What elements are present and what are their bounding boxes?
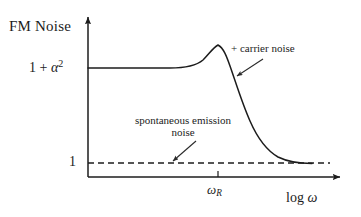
spontaneous-noise-leader-arrow [173, 141, 196, 161]
fm-noise-figure: FM Noise 1 + α2 1 ωR log ω + carrier noi… [0, 0, 361, 217]
x-axis-title-symbol: ω [307, 190, 317, 205]
y-tick-plateau-prefix: 1 + [29, 60, 51, 75]
carrier-noise-annotation: + carrier noise [231, 42, 295, 54]
spontaneous-noise-annotation-line2: noise [171, 126, 194, 138]
x-tick-omega-symbol: ω [207, 182, 216, 197]
x-axis-title: log ω [286, 190, 317, 206]
carrier-noise-annotation-text: + carrier noise [231, 42, 295, 54]
y-tick-label-unity: 1 [69, 154, 76, 170]
y-tick-plateau-exponent: 2 [58, 58, 63, 69]
y-tick-label-plateau: 1 + α2 [29, 58, 63, 75]
spontaneous-noise-annotation: spontaneous emission noise [129, 114, 237, 139]
x-tick-label-omega-r: ωR [207, 183, 222, 199]
x-tick-omega-subscript: R [216, 188, 222, 198]
x-axis-title-prefix: log [286, 190, 304, 205]
spontaneous-noise-annotation-line1: spontaneous emission [135, 114, 231, 126]
y-axis-title-text: FM Noise [9, 18, 71, 34]
y-axis-title: FM Noise [9, 18, 71, 35]
carrier-noise-leader-arrow [237, 59, 263, 76]
fm-noise-curve [88, 45, 312, 163]
y-tick-unity-text: 1 [69, 154, 76, 169]
